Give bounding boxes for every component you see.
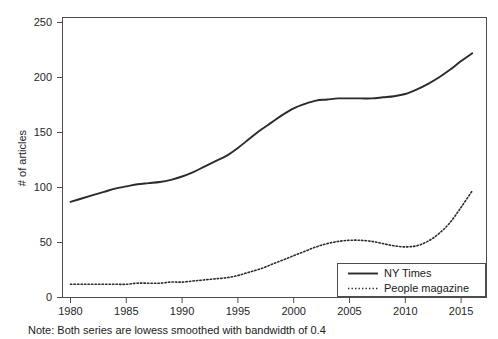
legend-label-people-magazine: People magazine — [384, 282, 469, 294]
x-tick-label-2015: 2015 — [449, 305, 473, 317]
chart-legend: NY Times People magazine — [338, 264, 486, 297]
x-axis-tick-labels: 1980 1985 1990 1995 2000 2005 2010 2015 — [58, 305, 473, 317]
y-tick-label-50: 50 — [40, 236, 52, 248]
y-axis-tick-labels: 250 200 150 100 50 0 — [34, 16, 52, 303]
chart-figure: 250 200 150 100 50 0 # of articles 1980 … — [0, 0, 498, 339]
chart-note: Note: Both series are lowess smoothed wi… — [28, 324, 326, 336]
x-axis-ticks — [71, 298, 462, 304]
y-tick-label-0: 0 — [46, 291, 52, 303]
y-axis-ticks — [57, 23, 63, 298]
y-tick-label-200: 200 — [34, 71, 52, 83]
x-tick-label-1980: 1980 — [58, 305, 82, 317]
x-tick-label-2000: 2000 — [281, 305, 305, 317]
plot-frame — [63, 18, 487, 298]
series-line-ny-times — [71, 53, 473, 202]
y-tick-label-100: 100 — [34, 181, 52, 193]
data-series-group — [71, 53, 473, 284]
x-tick-label-2005: 2005 — [337, 305, 361, 317]
line-chart-canvas: 250 200 150 100 50 0 # of articles 1980 … — [0, 0, 498, 339]
y-tick-label-150: 150 — [34, 126, 52, 138]
x-tick-label-1995: 1995 — [226, 305, 250, 317]
y-axis-title: # of articles — [16, 129, 28, 186]
x-tick-label-2010: 2010 — [393, 305, 417, 317]
y-tick-label-250: 250 — [34, 16, 52, 28]
legend-label-ny-times: NY Times — [384, 267, 432, 279]
x-tick-label-1985: 1985 — [114, 305, 138, 317]
x-tick-label-1990: 1990 — [170, 305, 194, 317]
